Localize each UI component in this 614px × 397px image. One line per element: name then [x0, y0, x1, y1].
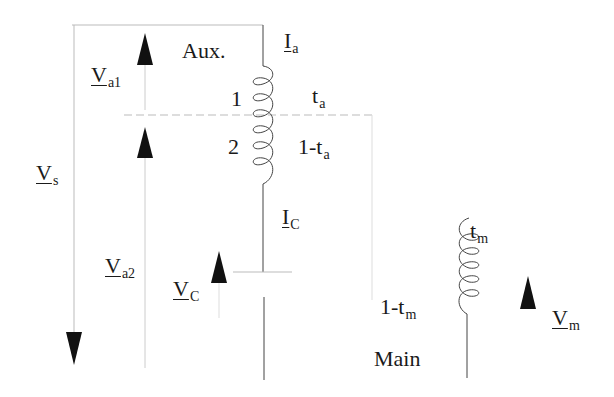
ic-label: IC — [282, 206, 300, 228]
vc-arrow-up-icon — [211, 251, 227, 283]
circuit-drawing — [0, 0, 614, 397]
ia-label: Ia — [284, 30, 299, 52]
vs-arrow-down-icon — [66, 332, 82, 365]
aux-coil-icon — [253, 66, 273, 184]
va2-label: Va2 — [105, 255, 135, 277]
one-minus-tm-label: 1-tm — [380, 296, 416, 318]
tm-label: tm — [470, 220, 488, 242]
vm-arrow-up-icon — [520, 276, 536, 309]
vm-label: Vm — [552, 307, 580, 329]
va2-arrow-up-icon — [137, 127, 153, 158]
one-minus-ta-label: 1-ta — [298, 136, 330, 158]
va1-arrow-up-icon — [137, 33, 153, 65]
main-label: Main — [374, 348, 420, 370]
tap2-label: 2 — [228, 136, 239, 158]
tap1-label: 1 — [231, 88, 242, 110]
aux-label: Aux. — [182, 40, 225, 62]
diagram-canvas: Aux. Ia Va1 1 ta 2 1-ta Vs IC tm Va2 VC … — [0, 0, 614, 397]
ta-label: ta — [312, 85, 325, 107]
vs-label: Vs — [36, 162, 58, 184]
va1-label: Va1 — [91, 64, 121, 86]
vc-label: VC — [173, 278, 199, 300]
